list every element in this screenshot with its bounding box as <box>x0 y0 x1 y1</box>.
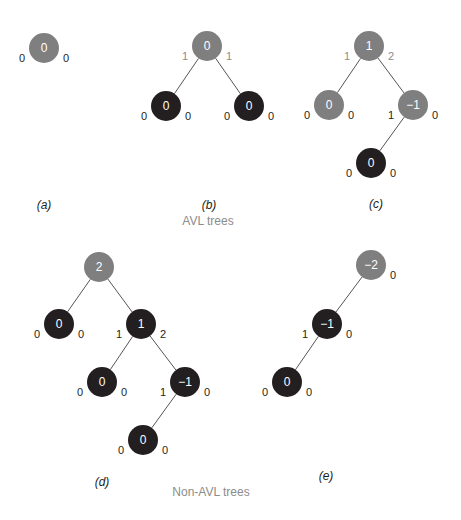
node-balance-value: 0 <box>204 39 211 53</box>
left-subtree-height: 0 <box>77 386 83 398</box>
captions-layer: (a) (b) (c) AVL trees (d) (e) Non-AVL tr… <box>37 197 383 499</box>
caption-tree-d: (d) <box>95 475 110 489</box>
right-subtree-height: 0 <box>162 444 168 456</box>
tree-edge <box>380 117 404 151</box>
caption-tree-b: (b) <box>202 198 217 212</box>
node-balance-value: 0 <box>163 99 170 113</box>
right-subtree-height: 0 <box>390 269 396 281</box>
left-subtree-height: 1 <box>160 386 166 398</box>
tree-node: 000 <box>224 91 274 122</box>
tree-node: 000 <box>34 309 84 340</box>
tree-edge <box>108 279 132 312</box>
group-label-non-avl: Non-AVL trees <box>172 485 249 499</box>
tree-node: 000 <box>118 425 168 456</box>
tree-node: 2 <box>84 252 114 282</box>
tree-node: 000 <box>346 148 396 179</box>
tree-edge <box>110 336 132 369</box>
right-subtree-height: 1 <box>226 50 232 62</box>
group-label-avl: AVL trees <box>182 214 233 228</box>
tree-edge <box>152 394 176 428</box>
node-balance-value: 0 <box>246 99 253 113</box>
node-balance-value: 0 <box>56 317 63 331</box>
node-balance-value: 1 <box>366 39 373 53</box>
node-balance-value: −2 <box>364 258 378 272</box>
left-subtree-height: 0 <box>19 52 25 64</box>
node-balance-value: −1 <box>320 317 334 331</box>
tree-node: −110 <box>160 367 210 398</box>
tree-edge <box>68 279 91 311</box>
right-subtree-height: 0 <box>78 328 84 340</box>
tree-edge <box>296 336 319 369</box>
caption-tree-c: (c) <box>369 197 383 211</box>
nodes-layer: 000011000000112000−1100002000112000−1100… <box>19 31 438 456</box>
node-balance-value: 1 <box>138 317 145 331</box>
left-subtree-height: 0 <box>34 328 40 340</box>
right-subtree-height: 0 <box>185 110 191 122</box>
tree-edge <box>150 336 176 370</box>
right-subtree-height: 2 <box>160 328 166 340</box>
tree-node: 112 <box>116 309 166 340</box>
node-balance-value: 0 <box>41 41 48 55</box>
right-subtree-height: 0 <box>432 109 438 121</box>
tree-edge <box>378 58 404 93</box>
tree-edge <box>337 58 360 92</box>
node-balance-value: −1 <box>178 375 192 389</box>
left-subtree-height: 1 <box>116 328 122 340</box>
right-subtree-height: 0 <box>63 52 69 64</box>
right-subtree-height: 0 <box>121 386 127 398</box>
tree-node: −110 <box>302 309 352 340</box>
right-subtree-height: 0 <box>268 110 274 122</box>
right-subtree-height: 0 <box>346 328 352 340</box>
left-subtree-height: 1 <box>302 328 308 340</box>
right-subtree-height: 0 <box>348 109 354 121</box>
left-subtree-height: 0 <box>118 444 124 456</box>
caption-tree-a: (a) <box>37 198 52 212</box>
tree-node: 000 <box>77 367 127 398</box>
left-subtree-height: 0 <box>346 167 352 179</box>
tree-node: 112 <box>344 31 394 62</box>
node-balance-value: 0 <box>140 433 147 447</box>
left-subtree-height: 0 <box>304 109 310 121</box>
right-subtree-height: 0 <box>306 386 312 398</box>
node-balance-value: −1 <box>406 98 420 112</box>
tree-node: 011 <box>182 31 232 62</box>
tree-edge <box>336 277 362 312</box>
node-balance-value: 0 <box>99 375 106 389</box>
tree-edge <box>174 58 198 93</box>
left-subtree-height: 1 <box>182 50 188 62</box>
tree-node: 000 <box>19 33 69 64</box>
left-subtree-height: 0 <box>141 110 147 122</box>
left-subtree-height: 1 <box>344 50 350 62</box>
left-subtree-height: 0 <box>262 386 268 398</box>
tree-node: 000 <box>304 90 354 121</box>
node-balance-value: 0 <box>326 98 333 112</box>
node-balance-value: 0 <box>284 375 291 389</box>
right-subtree-height: 0 <box>390 167 396 179</box>
left-subtree-height: 1 <box>388 109 394 121</box>
node-balance-value: 0 <box>368 156 375 170</box>
avl-tree-diagram: 000011000000112000−1100002000112000−1100… <box>0 0 461 520</box>
tree-edge <box>216 58 241 93</box>
tree-node: −20 <box>356 250 396 281</box>
left-subtree-height: 0 <box>224 110 230 122</box>
right-subtree-height: 2 <box>388 50 394 62</box>
tree-node: 000 <box>141 91 191 122</box>
tree-node: −110 <box>388 90 438 121</box>
caption-tree-e: (e) <box>319 469 334 483</box>
right-subtree-height: 0 <box>204 386 210 398</box>
tree-node: 000 <box>262 367 312 398</box>
node-balance-value: 2 <box>96 260 103 274</box>
